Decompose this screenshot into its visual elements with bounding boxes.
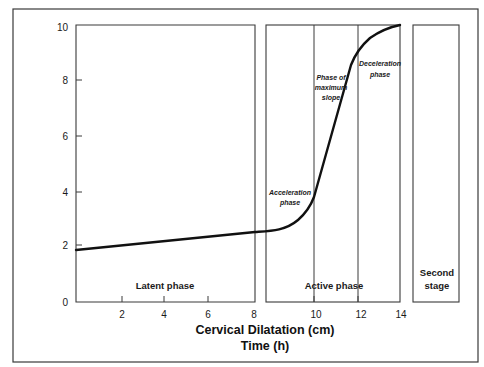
second-stage-label-2: stage (425, 280, 450, 291)
x-tick-label: 10 (310, 309, 322, 320)
deceleration-phase-label: Deceleration (359, 60, 401, 67)
max-slope-label: Phase of (316, 74, 346, 81)
second-stage-box (413, 25, 459, 302)
latent-phase-box (76, 25, 255, 302)
x-axis-title: Cervical Dilatation (cm) (196, 323, 335, 337)
y-tick-label: 6 (62, 131, 68, 142)
x-tick-label: 4 (161, 309, 167, 320)
acceleration-phase-label-2: phase (279, 199, 300, 207)
y-tick-label: 8 (62, 75, 68, 86)
x-tick-label: 8 (251, 309, 257, 320)
y-tick-label: 10 (57, 22, 69, 33)
x-tick-label: 2 (119, 309, 125, 320)
second-stage-label: Second (420, 267, 455, 278)
latent-phase-label: Latent phase (136, 280, 195, 291)
outer-frame (13, 9, 478, 362)
labor-curve-line (76, 25, 400, 250)
y-axis: 0 2 4 6 8 10 (57, 22, 82, 308)
y-tick-label: 2 (62, 240, 68, 251)
x-tick-label: 14 (395, 309, 407, 320)
active-phase-label: Active phase (305, 280, 364, 291)
x-tick-label: 6 (205, 309, 211, 320)
deceleration-phase-label-2: phase (369, 71, 390, 79)
y-tick-label: 4 (62, 187, 68, 198)
max-slope-label-3: slope (322, 94, 340, 102)
labor-curve-chart: 0 2 4 6 8 10 2 4 6 8 10 12 14 Latent pha… (0, 0, 484, 367)
x-tick-label: 12 (355, 309, 367, 320)
x-axis: 2 4 6 8 10 12 14 (119, 296, 407, 320)
y-tick-label: 0 (62, 297, 68, 308)
acceleration-phase-label: Acceleration (268, 189, 311, 196)
max-slope-label-2: maximum (315, 84, 348, 91)
x-axis-title-2: Time (h) (241, 339, 289, 353)
